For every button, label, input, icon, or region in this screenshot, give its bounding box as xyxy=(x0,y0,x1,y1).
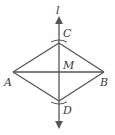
segment-AC xyxy=(13,43,59,72)
label-B: B xyxy=(99,76,108,89)
geometry-diagram: l C M A B D xyxy=(0,0,115,135)
label-D: D xyxy=(62,104,72,117)
segment-DA xyxy=(13,72,59,101)
segment-BD xyxy=(59,72,104,101)
label-M: M xyxy=(62,59,75,72)
label-A: A xyxy=(3,76,12,89)
label-C: C xyxy=(63,27,72,40)
label-l: l xyxy=(56,4,60,17)
